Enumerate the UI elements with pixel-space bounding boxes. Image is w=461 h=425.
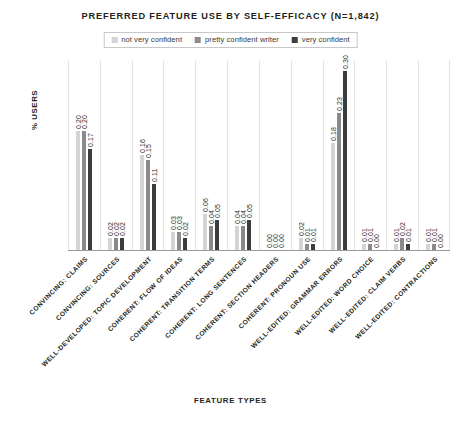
bar[interactable]: [88, 149, 92, 250]
bar-group: 0.020.020.02: [100, 60, 132, 250]
legend-label: very confident: [302, 35, 350, 44]
bar-slot: 0.30: [343, 60, 347, 250]
bar[interactable]: [241, 226, 245, 250]
bar[interactable]: [426, 244, 430, 250]
bar-slot: 0.20: [76, 60, 80, 250]
bar-slot: 0.01: [432, 60, 436, 250]
bar-slot: 0.01: [305, 60, 309, 250]
bar[interactable]: [368, 244, 372, 250]
chart-container: PREFERRED FEATURE USE BY SELF-EFFICACY (…: [0, 0, 461, 425]
bar-group: 0.040.040.05: [227, 60, 259, 250]
bar-value-label: 0.00: [373, 234, 380, 248]
bar[interactable]: [171, 232, 175, 250]
bar-group: 0.010.010.00: [354, 60, 386, 250]
legend-swatch-icon: [111, 37, 117, 43]
bar-slot: 0.02: [120, 60, 124, 250]
bar[interactable]: [120, 238, 124, 250]
legend-swatch-icon: [195, 37, 201, 43]
bar-slot: 0.03: [177, 60, 181, 250]
bar-groups: 0.200.200.170.020.020.020.160.150.110.03…: [68, 60, 450, 250]
bar[interactable]: [183, 238, 187, 250]
bar[interactable]: [76, 131, 80, 250]
bar[interactable]: [331, 143, 335, 250]
bar[interactable]: [400, 238, 404, 250]
bar[interactable]: [343, 71, 347, 250]
bar-value-label: 0.23: [336, 97, 343, 111]
bar-value-label: 0.00: [278, 234, 285, 248]
bar-slot: 0.00: [267, 60, 271, 250]
bar-value-label: 0.00: [437, 234, 444, 248]
bar-slot: 0.02: [114, 60, 118, 250]
bar-slot: 0.17: [88, 60, 92, 250]
bar-value-label: 0.15: [145, 144, 152, 158]
x-axis-tick-label: CONVINCING: CLAIMS: [28, 255, 89, 316]
legend-entry[interactable]: very confident: [292, 35, 350, 44]
bar-group: 0.180.230.30: [323, 60, 355, 250]
bar-slot: 0.11: [152, 60, 156, 250]
bar[interactable]: [140, 155, 144, 251]
y-axis-title: % USERS: [30, 90, 39, 130]
bar-slot: 0.16: [140, 60, 144, 250]
bar[interactable]: [203, 214, 207, 250]
bar-slot: 0.01: [394, 60, 398, 250]
bar-slot: 0.06: [203, 60, 207, 250]
bar[interactable]: [146, 160, 150, 250]
plot-area: 0.200.200.170.020.020.020.160.150.110.03…: [68, 60, 450, 251]
bar[interactable]: [235, 226, 239, 250]
bar-slot: 0.03: [171, 60, 175, 250]
bar-slot: 0.01: [311, 60, 315, 250]
bar-slot: 0.04: [241, 60, 245, 250]
bar-slot: 0.02: [108, 60, 112, 250]
bar-slot: 0.01: [406, 60, 410, 250]
legend-swatch-icon: [292, 37, 298, 43]
bar-slot: 0.01: [426, 60, 430, 250]
bar-group: 0.010.020.01: [386, 60, 418, 250]
bar-value-label: 0.02: [182, 222, 189, 236]
x-axis-label-slot: WELL-EDITED: CLAIM VERBS: [386, 253, 418, 373]
bar[interactable]: [247, 220, 251, 250]
legend-entry[interactable]: pretty confident writer: [195, 35, 279, 44]
bar[interactable]: [108, 238, 112, 250]
bar[interactable]: [311, 244, 315, 250]
bar-value-label: 0.17: [87, 133, 94, 147]
bar-value-label: 0.05: [246, 204, 253, 218]
bar[interactable]: [209, 226, 213, 250]
bar-slot: 0.00: [279, 60, 283, 250]
bar[interactable]: [362, 244, 366, 250]
bar[interactable]: [305, 244, 309, 250]
bar[interactable]: [152, 184, 156, 250]
bar[interactable]: [394, 244, 398, 250]
bar-slot: 0.02: [400, 60, 404, 250]
bar-value-label: 0.01: [310, 228, 317, 242]
bar-value-label: 0.01: [405, 228, 412, 242]
legend-entry[interactable]: not very confident: [111, 35, 182, 44]
bar-value-label: 0.11: [151, 169, 158, 183]
bar-group: 0.200.200.17: [68, 60, 100, 250]
bar-group: 0.160.150.11: [132, 60, 164, 250]
bar-slot: 0.05: [215, 60, 219, 250]
bar[interactable]: [432, 244, 436, 250]
bar[interactable]: [337, 113, 341, 250]
chart-legend: not very confidentpretty confident write…: [103, 32, 358, 48]
bar-slot: 0.01: [368, 60, 372, 250]
bar-slot: 0.02: [299, 60, 303, 250]
bar-slot: 0.18: [331, 60, 335, 250]
bar-value-label: 0.02: [119, 222, 126, 236]
bar[interactable]: [82, 131, 86, 250]
bar-value-label: 0.20: [81, 115, 88, 129]
legend-label: pretty confident writer: [205, 35, 279, 44]
x-axis-title: FEATURE TYPES: [0, 396, 461, 405]
bar[interactable]: [406, 244, 410, 250]
bar[interactable]: [299, 238, 303, 250]
bar-slot: 0.04: [235, 60, 239, 250]
x-axis-label-slot: WELL-EDITED: CONTRACTIONS: [418, 253, 450, 373]
legend-label: not very confident: [121, 35, 182, 44]
bar[interactable]: [215, 220, 219, 250]
bar[interactable]: [114, 238, 118, 250]
bar-value-label: 0.05: [214, 204, 221, 218]
bar[interactable]: [177, 232, 181, 250]
bar-group: 0.020.010.01: [291, 60, 323, 250]
bar-value-label: 0.18: [330, 127, 337, 141]
bar-slot: 0.00: [438, 60, 442, 250]
bar-slot: 0.05: [247, 60, 251, 250]
